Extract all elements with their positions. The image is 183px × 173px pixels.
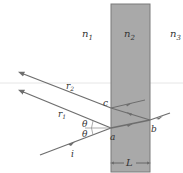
film-slab: [111, 4, 150, 172]
label-n1: n1: [82, 28, 93, 42]
incident-ray: [40, 128, 111, 155]
label-point-c: c: [103, 98, 108, 108]
transmitted-ray-b: [150, 113, 170, 120]
label-point-b: b: [151, 124, 157, 134]
thin-film-diagram: n1 n2 n3 i r1 r2 θ θ a b c L: [0, 0, 183, 173]
label-i: i: [71, 149, 74, 159]
label-point-a: a: [110, 132, 115, 142]
label-n3: n3: [170, 28, 181, 42]
label-theta-upper: θ: [82, 119, 88, 129]
label-L: L: [125, 157, 133, 168]
reflected-ray-r1: [21, 91, 111, 128]
label-r1: r1: [58, 109, 66, 120]
label-theta-lower: θ: [82, 129, 88, 139]
